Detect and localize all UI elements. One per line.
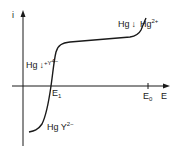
current-potential-diagram: i E E1 E0 Hg↓+Y4− Hg↓Hg2+ Hg Y2−	[0, 0, 176, 149]
y-axis-label: i	[12, 10, 14, 20]
x-axis	[12, 83, 170, 89]
polarographic-curve	[29, 18, 146, 132]
x-axis-arrow-icon	[163, 84, 170, 89]
e0-label: E0	[143, 91, 153, 102]
y-axis-arrow-icon	[21, 10, 26, 17]
y-axis	[21, 10, 26, 146]
annotation-hgy2: Hg Y2−	[47, 121, 74, 132]
e1-label: E1	[52, 88, 62, 99]
annotation-hg-hg2: Hg↓Hg2+	[118, 18, 159, 29]
x-axis-label: E	[161, 91, 167, 101]
